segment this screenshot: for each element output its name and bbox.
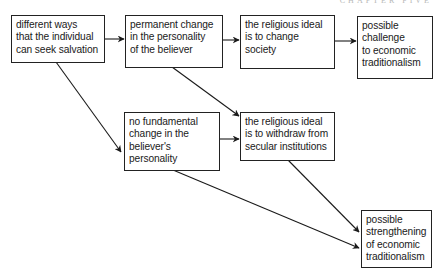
arrow-nochange-to-strengthening [173,170,359,248]
arrow-permanent-to-withdraw [172,67,239,116]
node-salvation-ways: different ways that the individual can s… [11,15,105,63]
node-withdraw: the religious ideal is to withdraw from … [240,112,335,161]
node-change-society: the religious ideal is to change society [240,15,335,69]
node-challenge-tradition: possible challenge to economic tradition… [357,16,433,79]
node-no-fundamental-change: no fundamental change in the believer's … [124,112,220,171]
running-head: Chapter Five [340,0,432,5]
arrow-withdraw-to-strengthening [288,160,359,232]
node-permanent-change: permanent change in the personality of t… [125,15,223,68]
node-strengthening-tradition: possible strengthening of economic tradi… [361,210,432,268]
arrow-salvation-to-nochange [56,62,121,152]
